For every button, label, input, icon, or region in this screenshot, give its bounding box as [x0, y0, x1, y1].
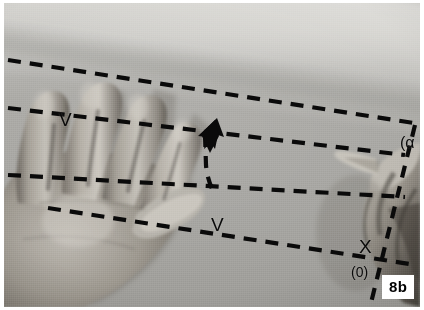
- angle-label: (α: [400, 135, 415, 151]
- annotation-layer: [4, 3, 420, 307]
- intersection-label: X: [359, 237, 372, 256]
- direction-arrow: [198, 118, 224, 153]
- velocity-label-lower: V: [211, 215, 224, 234]
- photograph: V V X (0) (α 8b: [4, 3, 420, 307]
- figure-label: 8b: [382, 275, 414, 299]
- figure-container: V V X (0) (α 8b: [0, 0, 424, 310]
- origin-label: (0): [351, 265, 368, 279]
- velocity-label-upper: V: [59, 110, 72, 129]
